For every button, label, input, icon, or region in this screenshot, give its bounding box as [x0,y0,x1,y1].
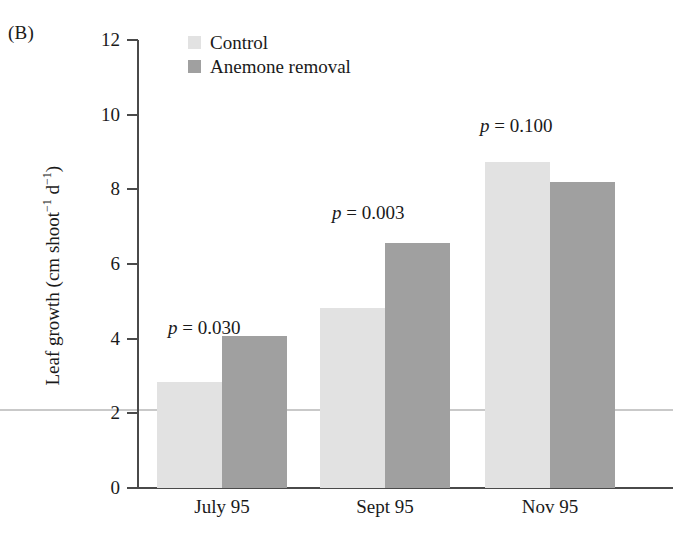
p-symbol: p [332,202,342,223]
panel-label: (B) [8,22,34,44]
x-axis-label-july-95: July 95 [142,497,302,516]
y-axis-tick-label: 0 [80,478,120,497]
p-symbol: p [168,317,178,338]
bar-anemone-removal-nov-95 [550,182,615,488]
y-axis-tick-label: 2 [80,403,120,422]
figure-panel-b: (B) 024681012 Leaf growth (cm shoot−1 d−… [0,0,673,544]
y-axis-title-sup1: −1 [40,199,54,212]
y-axis-tick-label: 6 [80,254,120,273]
bar-anemone-removal-sept-95 [385,243,450,488]
y-axis-title-prefix: Leaf growth (cm shoot [42,212,63,386]
y-axis-tick [127,188,138,190]
p-value-text: = 0.100 [490,115,553,136]
y-axis-tick [127,487,138,489]
y-axis-tick-label: 8 [80,179,120,198]
y-axis-title-suffix: ) [42,166,63,172]
p-value-label: p = 0.030 [168,318,240,337]
y-axis-tick [127,114,138,116]
p-value-text: = 0.030 [178,317,241,338]
bar-control-sept-95 [320,308,385,488]
y-axis-title: Leaf growth (cm shoot−1 d−1) [40,106,63,446]
p-value-label: p = 0.100 [480,116,552,135]
y-axis-tick [127,39,138,41]
x-axis-label-sept-95: Sept 95 [305,497,465,516]
plot-area [139,40,673,488]
y-axis-tick [127,338,138,340]
y-axis-tick [127,412,138,414]
p-symbol: p [480,115,490,136]
bar-control-nov-95 [485,162,550,488]
bar-control-july-95 [157,382,222,488]
x-axis-label-nov-95: Nov 95 [470,497,630,516]
y-axis-tick-label: 4 [80,329,120,348]
p-value-label: p = 0.003 [332,203,404,222]
bar-anemone-removal-july-95 [222,336,287,488]
p-value-text: = 0.003 [342,202,405,223]
y-axis-tick-label: 12 [80,30,120,49]
y-axis-tick-label: 10 [80,105,120,124]
y-axis-title-sup2: −1 [40,172,54,185]
y-axis-title-mid: d [42,185,63,199]
y-axis-tick [127,263,138,265]
